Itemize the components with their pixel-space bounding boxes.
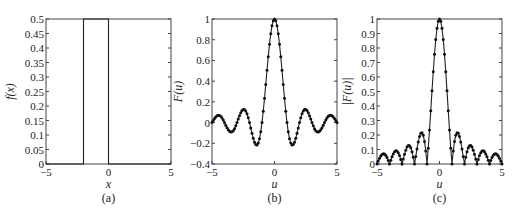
- data-point-marker: [433, 53, 436, 56]
- data-point-marker: [309, 118, 312, 121]
- data-point-marker: [449, 147, 452, 150]
- data-point-marker: [282, 83, 285, 86]
- data-point-marker: [448, 129, 451, 132]
- data-point-marker: [401, 163, 404, 166]
- x-tick-label: −5: [40, 166, 52, 178]
- data-point-marker: [298, 121, 301, 124]
- data-point-marker: [459, 141, 462, 144]
- data-point-marker: [267, 55, 270, 58]
- data-point-marker: [423, 140, 426, 143]
- data-point-marker: [424, 150, 427, 153]
- y-tick-label: 0.3: [361, 115, 375, 127]
- data-point-marker: [417, 141, 420, 144]
- data-point-marker: [271, 24, 274, 27]
- data-point-marker: [484, 152, 487, 155]
- y-tick-label: 0.3: [30, 71, 44, 83]
- data-point-marker: [443, 53, 446, 56]
- data-point-marker: [284, 110, 287, 113]
- data-point-marker: [278, 43, 281, 46]
- data-point-marker: [489, 159, 492, 162]
- data-point-marker: [249, 126, 252, 129]
- data-point-marker: [288, 137, 291, 140]
- data-point-marker: [308, 114, 311, 117]
- x-tick-label: 5: [499, 166, 505, 178]
- data-point-marker: [246, 112, 249, 115]
- y-tick-label: 0.5: [361, 86, 375, 98]
- data-point-marker: [388, 163, 391, 166]
- data-point-marker: [391, 155, 394, 158]
- data-point-marker: [252, 137, 255, 140]
- data-point-marker: [274, 19, 277, 22]
- y-tick-label: 0.2: [196, 96, 210, 108]
- figure-three-panels: 00.050.10.150.20.250.30.350.40.450.5−505…: [0, 0, 515, 211]
- data-point-marker: [473, 153, 476, 156]
- data-point-marker: [287, 130, 290, 133]
- data-point-marker: [237, 118, 240, 121]
- data-point-marker: [453, 140, 456, 143]
- y-tick-label: 0.25: [25, 86, 45, 98]
- data-point-marker: [451, 163, 454, 166]
- data-point-marker: [404, 149, 407, 152]
- data-point-marker: [478, 154, 481, 157]
- data-point-marker: [279, 55, 282, 58]
- data-point-marker: [476, 163, 479, 166]
- data-point-marker: [432, 70, 435, 73]
- y-tick-label: 0.45: [25, 28, 45, 40]
- data-point-marker: [402, 158, 405, 161]
- y-tick-label: 0.8: [361, 42, 375, 54]
- y-tick-label: 1: [370, 13, 376, 25]
- x-tick-label: 5: [334, 166, 340, 178]
- data-point-marker: [454, 134, 457, 137]
- data-line: [377, 19, 502, 164]
- data-point-marker: [234, 124, 237, 127]
- y-tick-label: 0.05: [25, 144, 45, 156]
- data-point-marker: [418, 135, 421, 138]
- data-point-marker: [428, 129, 431, 132]
- y-tick-label: 0.4: [361, 100, 375, 112]
- panel-caption: (c): [433, 191, 446, 205]
- data-point-marker: [498, 157, 501, 160]
- data-point-marker: [429, 109, 432, 112]
- axes-frame: [377, 19, 502, 164]
- data-point-marker: [238, 114, 241, 117]
- data-point-marker: [403, 153, 406, 156]
- x-tick-label: −5: [371, 166, 383, 178]
- x-tick-label: 5: [168, 166, 174, 178]
- data-point-marker: [488, 163, 491, 166]
- data-point-marker: [447, 109, 450, 112]
- data-point-marker: [446, 89, 449, 92]
- data-point-marker: [466, 150, 469, 153]
- data-line: [46, 19, 171, 164]
- data-point-marker: [439, 20, 442, 23]
- data-point-marker: [266, 69, 269, 72]
- data-point-marker: [247, 116, 250, 119]
- data-point-marker: [397, 151, 400, 154]
- data-point-marker: [312, 124, 315, 127]
- data-point-marker: [301, 112, 304, 115]
- panel-caption: (b): [268, 191, 282, 205]
- data-point-marker: [389, 159, 392, 162]
- y-tick-label: 0.2: [30, 100, 44, 112]
- data-point-marker: [244, 109, 247, 112]
- data-point-marker: [261, 121, 264, 124]
- data-point-marker: [307, 111, 310, 114]
- data-point-marker: [264, 83, 267, 86]
- data-point-marker: [499, 160, 502, 163]
- data-point-marker: [463, 163, 466, 166]
- data-point-marker: [297, 126, 300, 129]
- data-point-marker: [269, 32, 272, 35]
- data-point-marker: [501, 163, 504, 166]
- data-point-marker: [461, 147, 464, 150]
- data-point-marker: [286, 121, 289, 124]
- data-point-marker: [422, 134, 425, 137]
- data-point-marker: [262, 110, 265, 113]
- data-point-marker: [421, 131, 424, 134]
- data-point-marker: [294, 137, 297, 140]
- x-axis-label: u: [272, 177, 278, 191]
- y-tick-label: 0.35: [25, 57, 45, 69]
- data-point-marker: [336, 121, 339, 124]
- panel-caption: (a): [102, 191, 115, 205]
- data-point-marker: [464, 156, 467, 159]
- y-tick-label: 1: [205, 13, 211, 25]
- data-point-marker: [458, 135, 461, 138]
